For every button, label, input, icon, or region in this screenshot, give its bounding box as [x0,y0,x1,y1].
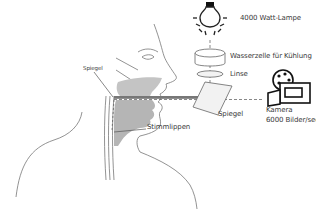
laryngoscopy-setup-diagram [0,0,316,209]
label-vocal-folds: Stimmlippen [147,123,190,131]
nasal-cavity-shape [117,77,162,96]
water-cell-cylinder [195,49,225,66]
label-mirror-main: Spiegel [218,110,243,118]
small-mirror-pointer [94,72,113,97]
label-mirror-small: Spiegel [83,65,103,72]
film-camera-icon [268,70,310,106]
light-bulb-icon [193,2,227,35]
label-lamp: 4000 Watt-Lampe [240,14,301,22]
label-lens: Linse [230,70,248,78]
endoscope-rod [114,96,198,99]
label-camera-fps: 6000 Bilder/sec [266,116,316,124]
head-profile-illustration [16,24,197,209]
label-water-cell: Wasserzelle für Kühlung [230,52,312,60]
label-camera: Kamera [266,106,292,114]
lens-ellipse [197,71,223,77]
